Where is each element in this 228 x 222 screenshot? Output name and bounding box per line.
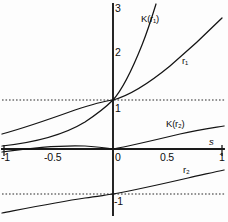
- label-r1: r₁: [182, 56, 188, 66]
- curve-r1: [2, 18, 222, 134]
- label-r2: r₂: [183, 165, 189, 175]
- label-K-r1: K(r₁): [141, 14, 159, 24]
- y-tick-label-1: 1: [115, 103, 121, 114]
- x-axis-name: s: [209, 137, 214, 147]
- label-K-r2: K(r₂): [166, 119, 185, 129]
- x-tick-label-05: 0.5: [160, 152, 174, 163]
- plot-canvas: [0, 0, 228, 222]
- plot-figure: 3 2 1 0 -1 -1 -0.5 0.5 1 s K(r₁) r₁ K(r₂…: [0, 0, 228, 222]
- y-tick-label-2: 2: [115, 47, 121, 58]
- x-tick-label-1: 1: [219, 152, 225, 163]
- y-tick-label-minus1: -1: [114, 196, 123, 207]
- x-tick-label-minus05: -0.5: [44, 152, 61, 163]
- x-tick-label-minus1: -1: [1, 152, 10, 163]
- y-tick-label-3: 3: [115, 3, 121, 14]
- y-tick-label-0: 0: [115, 152, 121, 163]
- curve-K-r1: [2, 4, 156, 146]
